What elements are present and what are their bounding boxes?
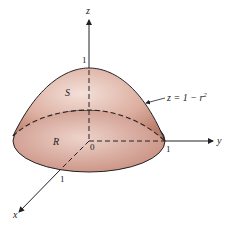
paraboloid-diagram: z y x 1 1 1 0 S R z = 1 − r2 [0, 0, 233, 227]
y-tick-one: 1 [166, 144, 171, 154]
y-axis-label: y [216, 135, 222, 146]
surface-label-S: S [65, 87, 70, 98]
x-tick-one: 1 [60, 174, 65, 184]
origin-label: 0 [90, 142, 95, 152]
z-axis-label: z [85, 5, 90, 16]
equation-pointer [146, 98, 165, 103]
x-axis-label: x [12, 209, 18, 220]
region-label-R: R [52, 136, 59, 147]
x-axis [19, 170, 60, 212]
equation-label: z = 1 − r2 [166, 91, 207, 103]
z-tick-one: 1 [82, 55, 87, 65]
